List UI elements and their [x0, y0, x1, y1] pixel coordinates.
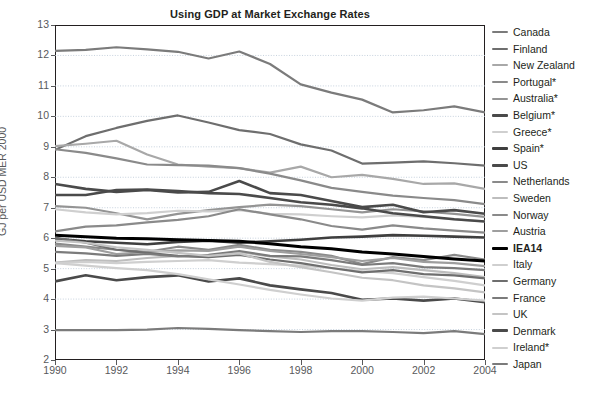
x-tick-mark	[55, 360, 56, 365]
y-tick-label: 8	[27, 170, 49, 182]
legend-item-label: Austria	[513, 226, 546, 237]
y-tick-mark	[51, 55, 55, 56]
x-tick-label: 2000	[342, 364, 382, 376]
legend-item-japan[interactable]: Japan	[492, 356, 605, 373]
y-tick-label: 11	[27, 79, 49, 91]
legend-item-label: Spain*	[513, 143, 544, 154]
chart-legend: CanadaFinlandNew ZealandPortugal*Austral…	[492, 24, 605, 372]
x-tick-mark	[424, 360, 425, 365]
legend-item-label: Belgium*	[513, 110, 555, 121]
legend-item-denmark[interactable]: Denmark	[492, 323, 605, 340]
y-tick-mark	[51, 238, 55, 239]
legend-item-label: Sweden	[513, 193, 551, 204]
legend-item-france[interactable]: France	[492, 290, 605, 307]
series-line-canada	[55, 47, 485, 112]
series-line-japan	[55, 328, 485, 334]
x-tick-mark	[239, 360, 240, 365]
x-tick-mark	[178, 360, 179, 365]
legend-line-swatch-icon	[492, 280, 508, 282]
legend-line-swatch-icon	[492, 214, 508, 216]
legend-item-italy[interactable]: Italy	[492, 256, 605, 273]
legend-item-label: France	[513, 293, 546, 304]
legend-line-swatch-icon	[492, 347, 508, 349]
legend-item-label: Australia*	[513, 93, 558, 104]
series-lines-svg	[55, 25, 485, 360]
legend-line-swatch-icon	[492, 247, 508, 250]
legend-item-spain[interactable]: Spain*	[492, 140, 605, 157]
y-tick-label: 10	[27, 109, 49, 121]
legend-item-label: Italy	[513, 259, 532, 270]
legend-line-swatch-icon	[492, 31, 508, 33]
legend-item-belgium[interactable]: Belgium*	[492, 107, 605, 124]
legend-item-label: New Zealand	[513, 60, 575, 71]
y-tick-mark	[51, 86, 55, 87]
legend-line-swatch-icon	[492, 114, 508, 117]
x-tick-label: 1992	[96, 364, 136, 376]
legend-line-swatch-icon	[492, 48, 508, 50]
y-tick-mark	[51, 25, 55, 26]
chart-title: Using GDP at Market Exchange Rates	[55, 8, 485, 20]
y-tick-label: 3	[27, 323, 49, 335]
legend-item-norway[interactable]: Norway	[492, 207, 605, 224]
y-tick-mark	[51, 208, 55, 209]
legend-item-label: UK	[513, 309, 528, 320]
y-tick-label: 12	[27, 48, 49, 60]
legend-item-label: Norway	[513, 210, 549, 221]
y-tick-mark	[51, 147, 55, 148]
legend-line-swatch-icon	[492, 64, 508, 66]
legend-item-label: Netherlands	[513, 176, 570, 187]
y-tick-mark	[51, 330, 55, 331]
legend-item-netherlands[interactable]: Netherlands	[492, 173, 605, 190]
legend-line-swatch-icon	[492, 313, 508, 315]
y-tick-label: 13	[27, 18, 49, 30]
legend-item-finland[interactable]: Finland	[492, 41, 605, 58]
legend-item-label: Denmark	[513, 326, 556, 337]
legend-item-new-zealand[interactable]: New Zealand	[492, 57, 605, 74]
x-tick-mark	[116, 360, 117, 365]
y-tick-mark	[51, 299, 55, 300]
legend-line-swatch-icon	[492, 164, 508, 167]
legend-item-australia[interactable]: Australia*	[492, 90, 605, 107]
legend-item-sweden[interactable]: Sweden	[492, 190, 605, 207]
x-tick-label: 2002	[404, 364, 444, 376]
legend-item-ireland[interactable]: Ireland*	[492, 339, 605, 356]
legend-line-swatch-icon	[492, 230, 508, 232]
y-axis-title: GJ per USD MER 2000	[0, 127, 8, 236]
legend-line-swatch-icon	[492, 264, 508, 266]
x-tick-label: 1996	[219, 364, 259, 376]
legend-item-label: Finland	[513, 44, 547, 55]
y-tick-label: 4	[27, 292, 49, 304]
legend-item-label: Japan	[513, 359, 542, 370]
series-line-denmark	[55, 275, 485, 302]
legend-item-uk[interactable]: UK	[492, 306, 605, 323]
legend-line-swatch-icon	[492, 181, 508, 183]
legend-item-austria[interactable]: Austria	[492, 223, 605, 240]
x-tick-mark	[362, 360, 363, 365]
legend-item-label: Germany	[513, 276, 556, 287]
chart-page: Using GDP at Market Exchange Rates 23456…	[0, 0, 605, 400]
y-tick-mark	[51, 116, 55, 117]
legend-item-iea14[interactable]: IEA14	[492, 240, 605, 257]
legend-item-label: US	[513, 160, 528, 171]
legend-line-swatch-icon	[492, 329, 508, 332]
y-tick-label: 9	[27, 140, 49, 152]
x-tick-label: 1998	[281, 364, 321, 376]
y-tick-label: 6	[27, 231, 49, 243]
legend-item-label: Greece*	[513, 127, 552, 138]
y-tick-mark	[51, 177, 55, 178]
x-tick-mark	[301, 360, 302, 365]
legend-item-canada[interactable]: Canada	[492, 24, 605, 41]
legend-item-germany[interactable]: Germany	[492, 273, 605, 290]
x-tick-mark	[485, 360, 486, 365]
legend-line-swatch-icon	[492, 147, 508, 150]
legend-item-portugal[interactable]: Portugal*	[492, 74, 605, 91]
y-tick-mark	[51, 269, 55, 270]
legend-line-swatch-icon	[492, 297, 508, 299]
legend-line-swatch-icon	[492, 81, 508, 83]
legend-item-us[interactable]: US	[492, 157, 605, 174]
legend-item-label: Portugal*	[513, 77, 556, 88]
legend-item-label: Ireland*	[513, 342, 549, 353]
series-line-new-zealand	[55, 141, 485, 189]
legend-item-label: IEA14	[513, 243, 542, 254]
legend-item-greece[interactable]: Greece*	[492, 124, 605, 141]
